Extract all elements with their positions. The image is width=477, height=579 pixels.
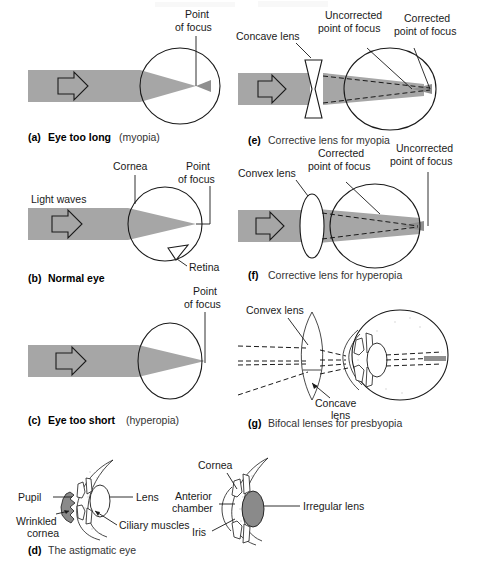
panel-d-ciliary-upper (86, 478, 92, 494)
panel-d-irregular-label: Irregular lens (303, 500, 364, 512)
panel-f-corrected-line1: Corrected (318, 147, 364, 159)
panel-f-uncorrected-line2: point of focus (390, 155, 452, 167)
panel-d-ciliary-lower (86, 508, 92, 524)
panel-a-caption-plain: (myopia) (119, 131, 160, 143)
panel-e-concave-label: Concave lens (236, 30, 300, 42)
panel-e-caption-plain: Corrective lens for myopia (268, 134, 390, 146)
panel-d-right-ciliary-upper (243, 474, 250, 494)
panel-d-irregular-lens (242, 491, 264, 527)
panel-g-concave-line1: Concave (315, 397, 357, 409)
panel-g-caption-plain: Bifocal lenses for presbyopia (268, 417, 402, 429)
panel-f-caption-plain: Corrective lens for hyperopia (268, 269, 402, 281)
panel-g-convex-label: Convex lens (246, 304, 304, 316)
panel-a-point-label: Point (185, 8, 209, 20)
panel-g-caption-letter: (g) (248, 417, 261, 429)
panel-b-light-waves-label: Light waves (31, 193, 86, 205)
panel-f-corrected-line2: point of focus (308, 160, 370, 172)
panel-f-caption-letter: (f) (248, 269, 259, 281)
panel-g-crystalline-lens (367, 343, 387, 377)
panel-d-caption-letter: (d) (28, 544, 41, 556)
panel-d-pupil-label: Pupil (18, 491, 41, 503)
panel-g-focus-spot (424, 356, 446, 361)
eye-optics-figure: Point of focus (a) Eye too long (myopia)… (0, 0, 477, 579)
panel-c-caption-plain: (hyperopia) (126, 414, 179, 426)
panel-b-retina-label: Retina (189, 261, 220, 273)
panel-c-caption-letter: (c) (28, 414, 41, 426)
panel-e-corrected-line1: Corrected (404, 12, 450, 24)
panel-b-cornea-label: Cornea (113, 160, 148, 172)
panel-e-uncorrected-line1: Uncorrected (325, 9, 382, 21)
panel-d-left-lens (90, 485, 110, 517)
panel-b-of-focus-label: of focus (178, 173, 215, 185)
panel-d-ciliary-label: Ciliary muscles (119, 519, 190, 531)
panel-d-cornea-label: Cornea (198, 459, 233, 471)
panel-f-uncorrected-line1: Uncorrected (396, 142, 453, 154)
panel-f-convex-label: Convex lens (238, 167, 296, 179)
panel-f-convex-lens (300, 194, 324, 258)
panel-d-wrinkled-label: Wrinkled (16, 515, 57, 527)
panel-d-chamber-label: chamber (172, 502, 213, 514)
panel-b-point-label: Point (186, 160, 210, 172)
panel-c-caption-bold: Eye too short (48, 414, 116, 426)
panel-b-caption-letter: (b) (28, 272, 41, 284)
panel-d-right-ciliary-lower (243, 524, 250, 543)
panel-e-caption-letter: (e) (248, 134, 261, 146)
panel-d-caption-plain: The astigmatic eye (48, 544, 136, 556)
panel-b-caption-bold: Normal eye (48, 272, 105, 284)
panel-c-of-focus-label: of focus (184, 298, 221, 310)
panel-a-caption-bold: Eye too long (48, 131, 111, 143)
panel-e-corrected-line2: point of focus (394, 25, 456, 37)
panel-a-caption-letter: (a) (28, 131, 41, 143)
panel-a-of-focus-label: of focus (175, 21, 212, 33)
panel-e-uncorrected-line2: point of focus (318, 22, 380, 34)
panel-d-anterior-label: Anterior (175, 490, 212, 502)
panel-d-cornea2-label: cornea (27, 527, 59, 539)
panel-d-iris-label: Iris (192, 526, 206, 538)
panel-d-lens-label: Lens (136, 491, 159, 503)
panel-c-point-label: Point (193, 285, 217, 297)
